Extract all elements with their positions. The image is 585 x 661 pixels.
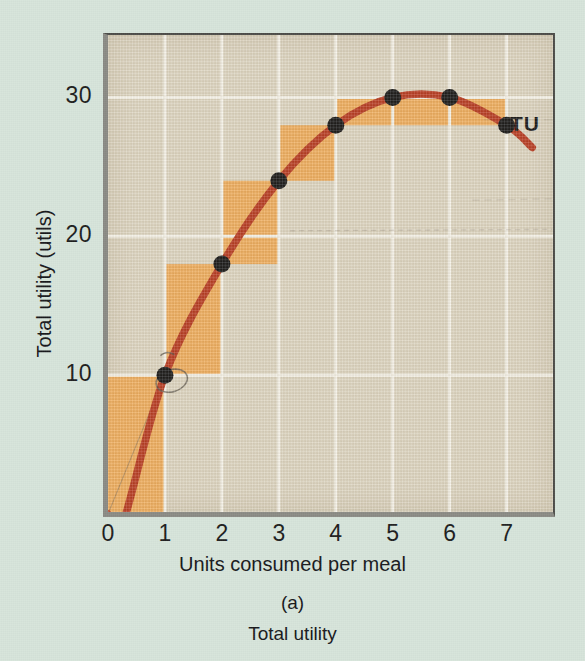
x-tick-label: 3 — [259, 520, 299, 547]
x-tick-label: 7 — [487, 520, 527, 547]
y-axis-title: Total utility (utils) — [33, 164, 56, 404]
x-tick-label: 1 — [145, 520, 185, 547]
x-tick-label: 6 — [430, 520, 470, 547]
x-tick-label: 4 — [316, 520, 356, 547]
panel-identifier: (a) — [0, 592, 585, 614]
x-axis-title: Units consumed per meal — [0, 553, 585, 576]
x-tick-label: 2 — [202, 520, 242, 547]
panel-caption: Total utility — [0, 623, 585, 645]
x-tick-label: 5 — [373, 520, 413, 547]
series-label-tu: TU — [510, 112, 540, 136]
x-tick-label: 0 — [88, 520, 128, 547]
figure-total-utility: 10 20 30 0 1 2 3 4 5 6 7 Total utility (… — [0, 0, 585, 661]
